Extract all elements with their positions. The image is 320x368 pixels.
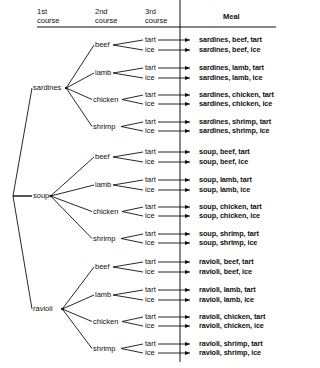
- meal-outcome: ravioli, chicken, tart: [199, 313, 265, 321]
- first-course-ravioli: ravioli: [33, 305, 53, 313]
- meal-outcome: soup, shrimp, ice: [199, 239, 257, 247]
- second-course-beef: beef: [95, 153, 110, 161]
- second-course-beef: beef: [95, 41, 110, 49]
- header-2nd-line2: course: [95, 17, 118, 26]
- meal-outcome: soup, beef, tart: [199, 148, 250, 156]
- header-3rd-course: 3rd course: [145, 8, 168, 25]
- third-course-tart: tart: [145, 91, 156, 99]
- header-meal: Meal: [223, 13, 240, 22]
- third-course-ice: ice: [145, 212, 155, 220]
- third-course-ice: ice: [145, 46, 155, 54]
- third-course-tart: tart: [145, 118, 156, 126]
- second-course-beef: beef: [95, 263, 110, 271]
- meal-outcome: ravioli, lamb, ice: [199, 296, 254, 304]
- third-course-tart: tart: [145, 203, 156, 211]
- meal-outcome: sardines, beef, ice: [199, 46, 260, 54]
- third-course-ice: ice: [145, 158, 155, 166]
- second-course-chicken: chicken: [93, 318, 118, 326]
- meal-outcome: soup, chicken, tart: [199, 203, 262, 211]
- meal-outcome: soup, beef, ice: [199, 158, 248, 166]
- meal-outcome: sardines, beef, tart: [199, 36, 262, 44]
- third-course-ice: ice: [145, 322, 155, 330]
- second-course-chicken: chicken: [93, 208, 118, 216]
- third-course-ice: ice: [145, 296, 155, 304]
- second-course-chicken: chicken: [93, 96, 118, 104]
- first-course-sardines: sardines: [33, 84, 61, 92]
- meal-outcome: ravioli, shrimp, tart: [199, 340, 263, 348]
- third-course-tart: tart: [145, 340, 156, 348]
- third-course-tart: tart: [145, 148, 156, 156]
- meal-outcome: sardines, chicken, tart: [199, 91, 274, 99]
- meal-outcome: soup, shrimp, tart: [199, 230, 259, 238]
- header-1st-course: 1st course: [37, 8, 60, 25]
- meal-outcome: soup, lamb, tart: [199, 176, 252, 184]
- meal-outcome: ravioli, beef, tart: [199, 258, 253, 266]
- third-course-tart: tart: [145, 313, 156, 321]
- third-course-tart: tart: [145, 176, 156, 184]
- second-course-lamb: lamb: [95, 291, 111, 299]
- second-course-shrimp: shrimp: [93, 235, 116, 243]
- meal-outcome: sardines, shrimp, ice: [199, 127, 270, 135]
- first-course-soup: soup: [33, 192, 49, 200]
- meal-outcome: soup, lamb, ice: [199, 186, 250, 194]
- meal-outcome: sardines, lamb, tart: [199, 64, 264, 72]
- meal-outcome: ravioli, beef, ice: [199, 268, 252, 276]
- meal-outcome: ravioli, lamb, tart: [199, 286, 256, 294]
- third-course-tart: tart: [145, 230, 156, 238]
- second-course-shrimp: shrimp: [93, 123, 116, 131]
- third-course-tart: tart: [145, 258, 156, 266]
- meal-outcome: ravioli, shrimp, ice: [199, 349, 261, 357]
- third-course-ice: ice: [145, 349, 155, 357]
- second-course-lamb: lamb: [95, 181, 111, 189]
- third-course-ice: ice: [145, 268, 155, 276]
- header-3rd-line2: course: [145, 17, 168, 26]
- third-course-ice: ice: [145, 186, 155, 194]
- third-course-tart: tart: [145, 64, 156, 72]
- meal-outcome: ravioli, chicken, ice: [199, 322, 264, 330]
- third-course-ice: ice: [145, 74, 155, 82]
- meal-outcome: sardines, chicken, ice: [199, 100, 272, 108]
- second-course-lamb: lamb: [95, 69, 111, 77]
- third-course-ice: ice: [145, 127, 155, 135]
- third-course-ice: ice: [145, 100, 155, 108]
- second-course-shrimp: shrimp: [93, 345, 116, 353]
- meal-outcome: sardines, shrimp, tart: [199, 118, 271, 126]
- meal-outcome: soup, chicken, ice: [199, 212, 260, 220]
- header-1st-line2: course: [37, 17, 60, 26]
- header-2nd-course: 2nd course: [95, 8, 118, 25]
- third-course-tart: tart: [145, 286, 156, 294]
- third-course-ice: ice: [145, 239, 155, 247]
- meal-outcome: sardines, lamb, ice: [199, 74, 262, 82]
- third-course-tart: tart: [145, 36, 156, 44]
